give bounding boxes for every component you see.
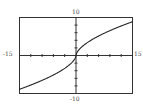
plot-area xyxy=(0,0,143,105)
